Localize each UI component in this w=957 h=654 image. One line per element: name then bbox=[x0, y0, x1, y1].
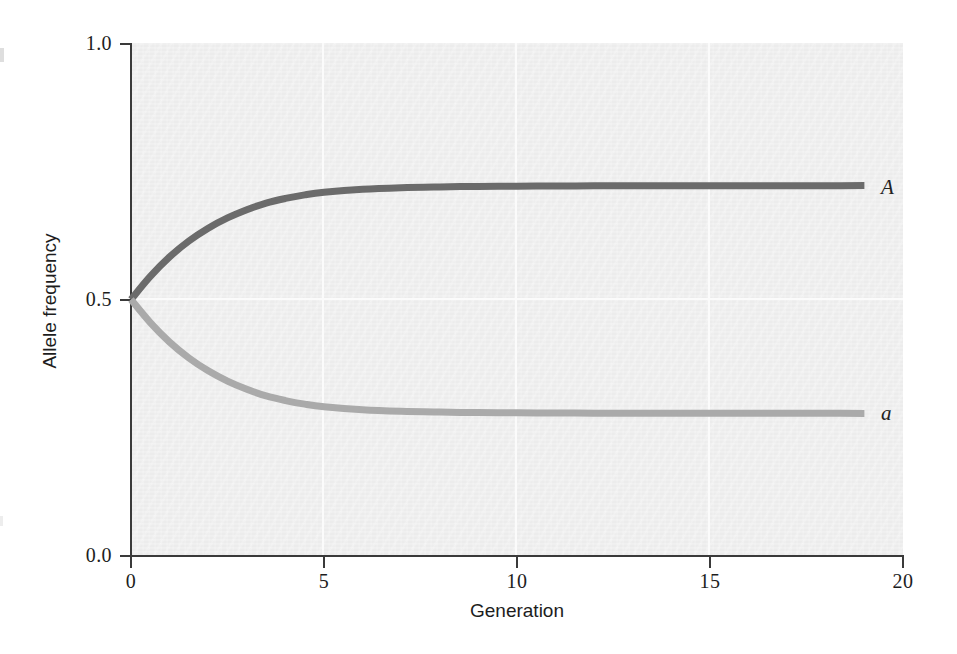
gridline-horizontal-0-5 bbox=[131, 298, 903, 300]
series-label-A: A bbox=[881, 175, 894, 200]
page-edge-artifact-lower bbox=[0, 516, 3, 526]
x-tick-mark-0 bbox=[130, 556, 132, 568]
series-label-a: a bbox=[881, 401, 892, 426]
x-tick-label-0: 0 bbox=[101, 570, 161, 593]
x-tick-mark-15 bbox=[709, 556, 711, 568]
y-tick-mark-1-0 bbox=[120, 43, 131, 45]
x-axis-title: Generation bbox=[131, 600, 903, 622]
plot-area bbox=[131, 43, 903, 556]
y-tick-mark-0-5 bbox=[120, 299, 131, 301]
x-tick-mark-5 bbox=[323, 556, 325, 568]
y-tick-label-1-0: 1.0 bbox=[42, 32, 112, 55]
y-axis-title: Allele frequency bbox=[39, 191, 61, 411]
x-tick-label-10: 10 bbox=[487, 570, 547, 593]
allele-frequency-chart-figure: 1.0 0.5 0.0 0 5 10 15 20 Allele frequenc… bbox=[0, 0, 957, 654]
y-tick-label-0-0: 0.0 bbox=[42, 544, 112, 567]
x-tick-label-15: 15 bbox=[680, 570, 740, 593]
x-tick-mark-10 bbox=[516, 556, 518, 568]
x-tick-label-5: 5 bbox=[294, 570, 354, 593]
x-tick-mark-20 bbox=[902, 556, 904, 568]
x-tick-label-20: 20 bbox=[873, 570, 933, 593]
page-edge-artifact bbox=[0, 48, 4, 62]
